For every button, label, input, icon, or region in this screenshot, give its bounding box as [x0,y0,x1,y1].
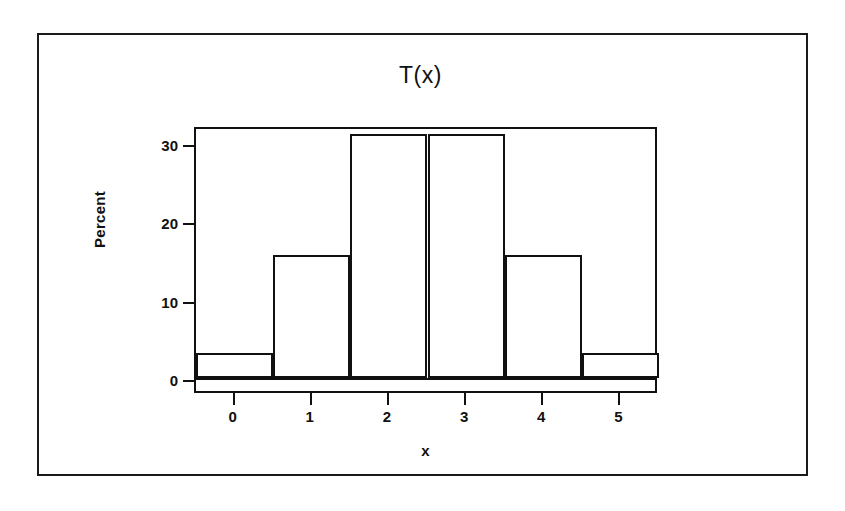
x-axis-tick-label: 3 [460,408,468,425]
x-axis-spine [194,391,657,393]
histogram-bar [582,353,659,378]
x-axis-spine-left-cap [194,380,196,391]
x-axis-tick-label: 2 [383,408,391,425]
y-axis-tick-label: 20 [161,215,178,232]
plot-area [194,127,657,380]
x-axis-tick [464,391,466,405]
y-axis-tick-label: 10 [161,293,178,310]
x-axis-label: x [194,442,657,459]
x-axis-tick [618,391,620,405]
x-axis-tick-label: 4 [537,408,545,425]
chart-title-text: T(x) [399,62,442,89]
y-axis-tick [183,145,194,147]
x-axis-tick-label: 5 [614,408,622,425]
histogram-bar [273,255,350,378]
y-axis-tick-label: 0 [170,372,178,389]
outer-page-frame: T(x) 0102030 Percent 012345 x [37,33,808,476]
y-axis-tick [183,302,194,304]
histogram-bar [505,255,582,378]
x-axis-spine-right-cap [655,380,657,391]
x-axis-tick-label: 1 [306,408,314,425]
chart-figure: T(x) 0102030 Percent 012345 x [39,35,810,478]
y-axis-tick [183,223,194,225]
y-axis-label: Percent [91,191,108,248]
x-axis-tick [387,391,389,405]
x-axis-tick [310,391,312,405]
x-axis: 012345 x [194,380,657,478]
x-axis-tick [541,391,543,405]
y-axis-tick-label: 30 [161,137,178,154]
histogram-bar [350,134,427,378]
histogram-bar [428,134,505,378]
histogram-bar [196,353,273,378]
y-axis: 0102030 Percent [39,35,194,478]
y-axis-tick [183,380,194,382]
x-axis-tick-label: 0 [228,408,236,425]
x-axis-tick [233,391,235,405]
bar-group [196,129,655,378]
